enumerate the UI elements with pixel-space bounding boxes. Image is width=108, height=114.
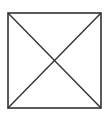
placeholder-diagram [0,0,108,114]
